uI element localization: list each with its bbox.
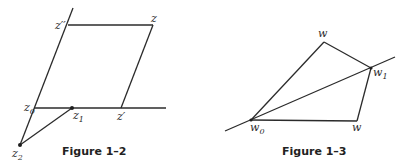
label-z: z (150, 12, 157, 25)
w-bottom-w0-edge (251, 120, 357, 121)
label-w0: w0 (250, 121, 265, 136)
figure-caption: Figure 1–2 (62, 145, 127, 158)
w-top-w1-edge (324, 42, 371, 68)
diagram-canvas: z′′ z z0 z1 z′ z2 Figure 1–2 w w1 w0 w F… (0, 0, 412, 164)
label-z2: z2 (11, 147, 23, 162)
label-w1: w1 (373, 66, 388, 81)
figure-caption: Figure 1–3 (282, 145, 347, 158)
figure-1-2: z′′ z z0 z1 z′ z2 Figure 1–2 (11, 8, 166, 162)
label-z1: z1 (72, 109, 84, 124)
right-edge-line (121, 25, 153, 108)
figure-1-3: w w1 w0 w Figure 1–3 (225, 27, 395, 158)
label-w-top: w (318, 27, 328, 40)
label-w-bottom: w (352, 121, 362, 134)
label-z-double-prime: z′′ (54, 19, 66, 32)
w0-w-top-edge (251, 42, 324, 120)
label-z0: z0 (23, 101, 35, 116)
z2-point (18, 143, 22, 147)
w1-w-bottom-edge (357, 68, 371, 121)
label-z-prime: z′ (116, 110, 126, 123)
